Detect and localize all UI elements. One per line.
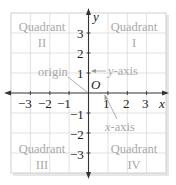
- y-tick-label: 2: [77, 46, 84, 61]
- x-tick-label: −1: [57, 96, 71, 111]
- x-tick-label: −3: [18, 96, 32, 111]
- svg-text:Quadrant: Quadrant: [19, 20, 66, 34]
- x-tick-label: −2: [38, 96, 52, 111]
- y-tick-label: −3: [70, 147, 84, 162]
- x-axis-left-arrow-icon: [4, 91, 11, 96]
- svg-text:I: I: [132, 36, 136, 50]
- x-tick-label: 2: [123, 96, 130, 111]
- svg-text:y-axis: y-axis: [106, 64, 138, 78]
- y-tick-label: −1: [70, 107, 84, 122]
- svg-text:x-axis: x-axis: [104, 120, 135, 134]
- coordinate-plane-diagram: x y O −3 −2 −1 1 2 3 3 2 1 −1 −2 −3 Quad…: [0, 0, 176, 185]
- y-axis-up-arrow-icon: [86, 8, 91, 15]
- svg-text:II: II: [38, 36, 46, 50]
- svg-text:origin: origin: [38, 65, 69, 79]
- x-axis-label: x: [158, 96, 165, 111]
- svg-text:Quadrant: Quadrant: [111, 20, 158, 34]
- svg-text:IV: IV: [127, 158, 140, 172]
- svg-text:III: III: [36, 158, 49, 172]
- y-tick-label: 1: [77, 66, 84, 81]
- x-tick-label: 3: [142, 96, 149, 111]
- y-axis-label: y: [91, 9, 99, 24]
- y-tick-label: −2: [70, 127, 84, 142]
- svg-text:Quadrant: Quadrant: [19, 142, 66, 156]
- origin-label: O: [91, 77, 101, 92]
- svg-text:Quadrant: Quadrant: [111, 142, 158, 156]
- y-tick-label: 3: [77, 26, 84, 41]
